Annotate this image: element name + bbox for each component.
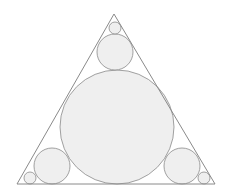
right-medium-circle: [164, 148, 200, 184]
top-medium-circle: [97, 34, 133, 70]
left-medium-circle: [34, 148, 70, 184]
left-small-circle: [24, 172, 36, 184]
top-small-circle: [109, 22, 121, 34]
triangle-circles-diagram: [0, 0, 228, 191]
right-small-circle: [198, 172, 210, 184]
